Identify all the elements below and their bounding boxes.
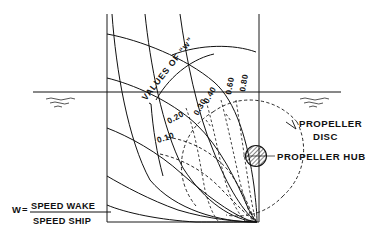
contour-label-020: 0.20 xyxy=(166,110,186,126)
waterline-left xyxy=(33,92,107,107)
contour-label-040-text: 0.40 xyxy=(202,85,218,105)
wake-diagram: 0.10 0.20 0.30 0.40 0.60 0.80 VALUES OF … xyxy=(0,0,376,247)
waterline-right xyxy=(259,92,341,107)
propeller-disc-label-line2: DISC xyxy=(313,131,338,142)
callout-propeller-disc: PROPELLER DISC xyxy=(286,118,362,142)
contour-label-080-text: 0.80 xyxy=(238,73,250,92)
contour-label-080: 0.80 xyxy=(238,73,250,92)
propeller-disc-label-line1: PROPELLER xyxy=(299,118,362,129)
hatched-hub xyxy=(246,146,267,167)
formula-denominator: SPEED SHIP xyxy=(33,216,91,226)
contour-label-060: 0.60 xyxy=(224,76,236,95)
formula-equals: = xyxy=(22,204,28,215)
formula-symbol: W xyxy=(12,204,21,215)
contour-label-020-text: 0.20 xyxy=(166,110,186,126)
callout-propeller-hub: PROPELLER HUB xyxy=(277,151,366,162)
contour-label-040: 0.40 xyxy=(202,85,218,105)
propeller-hub-label: PROPELLER HUB xyxy=(277,151,366,162)
contour-label-060-text: 0.60 xyxy=(224,76,236,95)
wake-fraction-formula: W = SPEED WAKE SPEED SHIP xyxy=(12,201,111,226)
formula-numerator: SPEED WAKE xyxy=(31,201,95,211)
